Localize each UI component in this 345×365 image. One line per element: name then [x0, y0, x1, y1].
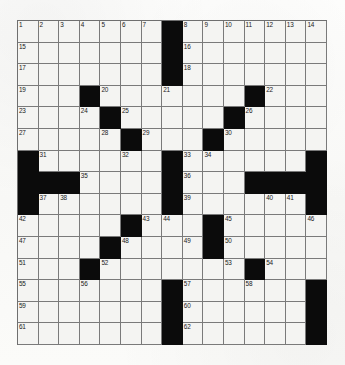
letter-cell[interactable] — [286, 259, 307, 281]
letter-cell[interactable] — [121, 43, 142, 65]
letter-cell[interactable] — [100, 64, 121, 86]
letter-cell[interactable] — [39, 237, 60, 259]
letter-cell[interactable] — [121, 280, 142, 302]
letter-cell[interactable] — [121, 323, 142, 345]
letter-cell[interactable] — [265, 280, 286, 302]
letter-cell[interactable] — [121, 194, 142, 216]
letter-cell[interactable]: 36 — [183, 172, 204, 194]
letter-cell[interactable] — [100, 172, 121, 194]
letter-cell[interactable]: 23 — [18, 107, 39, 129]
letter-cell[interactable] — [39, 107, 60, 129]
letter-cell[interactable]: 46 — [306, 215, 327, 237]
letter-cell[interactable]: 16 — [183, 43, 204, 65]
letter-cell[interactable] — [306, 237, 327, 259]
letter-cell[interactable] — [59, 86, 80, 108]
letter-cell[interactable]: 37 — [39, 194, 60, 216]
letter-cell[interactable]: 38 — [59, 194, 80, 216]
letter-cell[interactable] — [265, 302, 286, 324]
letter-cell[interactable]: 10 — [224, 21, 245, 43]
letter-cell[interactable]: 18 — [183, 64, 204, 86]
letter-cell[interactable]: 44 — [162, 215, 183, 237]
letter-cell[interactable] — [80, 237, 101, 259]
letter-cell[interactable]: 20 — [100, 86, 121, 108]
letter-cell[interactable]: 29 — [142, 129, 163, 151]
letter-cell[interactable] — [224, 194, 245, 216]
letter-cell[interactable] — [306, 259, 327, 281]
letter-cell[interactable]: 61 — [18, 323, 39, 345]
letter-cell[interactable] — [142, 64, 163, 86]
letter-cell[interactable] — [224, 172, 245, 194]
letter-cell[interactable]: 32 — [121, 151, 142, 173]
letter-cell[interactable]: 4 — [80, 21, 101, 43]
letter-cell[interactable]: 27 — [18, 129, 39, 151]
letter-cell[interactable] — [203, 259, 224, 281]
letter-cell[interactable] — [39, 86, 60, 108]
letter-cell[interactable]: 25 — [121, 107, 142, 129]
letter-cell[interactable] — [203, 43, 224, 65]
letter-cell[interactable] — [183, 259, 204, 281]
letter-cell[interactable] — [121, 172, 142, 194]
letter-cell[interactable] — [39, 43, 60, 65]
letter-cell[interactable] — [142, 194, 163, 216]
letter-cell[interactable]: 43 — [142, 215, 163, 237]
letter-cell[interactable] — [121, 259, 142, 281]
letter-cell[interactable] — [286, 280, 307, 302]
letter-cell[interactable]: 35 — [80, 172, 101, 194]
letter-cell[interactable] — [142, 280, 163, 302]
letter-cell[interactable] — [245, 323, 266, 345]
letter-cell[interactable] — [306, 86, 327, 108]
letter-cell[interactable]: 53 — [224, 259, 245, 281]
letter-cell[interactable] — [162, 107, 183, 129]
letter-cell[interactable]: 17 — [18, 64, 39, 86]
letter-cell[interactable] — [100, 151, 121, 173]
letter-cell[interactable] — [59, 215, 80, 237]
letter-cell[interactable] — [59, 64, 80, 86]
letter-cell[interactable]: 14 — [306, 21, 327, 43]
letter-cell[interactable] — [286, 107, 307, 129]
letter-cell[interactable] — [183, 215, 204, 237]
letter-cell[interactable] — [59, 280, 80, 302]
letter-cell[interactable] — [306, 64, 327, 86]
letter-cell[interactable]: 30 — [224, 129, 245, 151]
letter-cell[interactable] — [183, 107, 204, 129]
letter-cell[interactable] — [142, 237, 163, 259]
letter-cell[interactable] — [203, 302, 224, 324]
letter-cell[interactable] — [245, 194, 266, 216]
letter-cell[interactable] — [183, 86, 204, 108]
letter-cell[interactable]: 62 — [183, 323, 204, 345]
letter-cell[interactable]: 42 — [18, 215, 39, 237]
letter-cell[interactable]: 9 — [203, 21, 224, 43]
letter-cell[interactable]: 47 — [18, 237, 39, 259]
letter-cell[interactable]: 54 — [265, 259, 286, 281]
letter-cell[interactable] — [183, 129, 204, 151]
letter-cell[interactable] — [265, 151, 286, 173]
letter-cell[interactable]: 49 — [183, 237, 204, 259]
letter-cell[interactable] — [286, 86, 307, 108]
letter-cell[interactable]: 11 — [245, 21, 266, 43]
letter-cell[interactable] — [203, 194, 224, 216]
letter-cell[interactable] — [265, 323, 286, 345]
letter-cell[interactable] — [39, 259, 60, 281]
letter-cell[interactable] — [59, 129, 80, 151]
letter-cell[interactable] — [142, 86, 163, 108]
letter-cell[interactable] — [100, 43, 121, 65]
letter-cell[interactable] — [80, 194, 101, 216]
letter-cell[interactable] — [39, 302, 60, 324]
letter-cell[interactable] — [203, 172, 224, 194]
letter-cell[interactable] — [306, 129, 327, 151]
letter-cell[interactable]: 39 — [183, 194, 204, 216]
letter-cell[interactable]: 2 — [39, 21, 60, 43]
letter-cell[interactable]: 48 — [121, 237, 142, 259]
letter-cell[interactable] — [224, 43, 245, 65]
letter-cell[interactable]: 1 — [18, 21, 39, 43]
letter-cell[interactable] — [80, 323, 101, 345]
letter-cell[interactable]: 50 — [224, 237, 245, 259]
letter-cell[interactable]: 55 — [18, 280, 39, 302]
letter-cell[interactable]: 24 — [80, 107, 101, 129]
letter-cell[interactable]: 40 — [265, 194, 286, 216]
letter-cell[interactable] — [59, 323, 80, 345]
letter-cell[interactable]: 6 — [121, 21, 142, 43]
letter-cell[interactable]: 57 — [183, 280, 204, 302]
letter-cell[interactable]: 26 — [245, 107, 266, 129]
letter-cell[interactable] — [100, 302, 121, 324]
